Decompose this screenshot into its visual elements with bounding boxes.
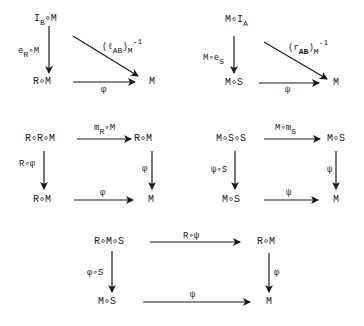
- d1-label-left: eR∘M: [18, 45, 39, 61]
- d4-node-top-left: M∘S∘S: [216, 133, 246, 145]
- d2-node-top-left: M∘IA: [225, 14, 248, 30]
- d3-node-bottom-left: R∘M: [33, 194, 51, 206]
- d1-node-top-left: IB∘M: [34, 13, 57, 29]
- d5-node-top-left: R∘M∘S: [94, 236, 124, 248]
- d4-node-bottom-right: M: [333, 194, 339, 206]
- d4-label-left: ψ∘S: [211, 164, 227, 176]
- d2-label-left: M∘eS: [203, 52, 224, 68]
- d5-node-top-right: R∘M: [257, 236, 275, 248]
- d4-node-bottom-left: M∘S: [222, 194, 240, 206]
- d3-label-bottom: φ: [100, 187, 105, 199]
- d3-label-top: mR∘M: [94, 122, 115, 138]
- d4-node-top-right: M∘S: [327, 133, 345, 145]
- d1-label-bottom: φ: [101, 84, 106, 96]
- d1-node-bottom-left: R∘M: [33, 76, 51, 88]
- d4-label-right: ψ: [327, 164, 332, 176]
- d5-label-top: R∘ψ: [183, 230, 199, 242]
- d2-node-bottom-right: M: [333, 77, 339, 89]
- d2-node-bottom-left: M∘S: [225, 77, 243, 89]
- d4-label-top: M∘mS: [275, 122, 296, 138]
- d3-label-right: φ: [142, 163, 147, 175]
- d3-node-top-right: R∘M: [134, 133, 152, 145]
- d2-label-bottom: ψ: [285, 84, 290, 96]
- d5-node-bottom-left: M∘S: [98, 296, 116, 308]
- d2-label-diagonal: (rAB)M-1: [288, 37, 328, 58]
- d5-label-right: φ: [274, 267, 279, 279]
- d1-node-bottom-right: M: [149, 76, 155, 88]
- d3-node-bottom-right: M: [148, 194, 154, 206]
- d3-node-top-left: R∘R∘M: [25, 133, 55, 145]
- d3-label-left: R∘φ: [19, 158, 35, 170]
- d5-node-bottom-right: M: [266, 296, 272, 308]
- d5-label-bottom: ψ: [190, 289, 195, 301]
- d5-label-left: φ∘S: [87, 267, 103, 279]
- d4-label-bottom: ψ: [286, 187, 291, 199]
- d1-label-diagonal: (ℓAB)M-1: [102, 36, 142, 57]
